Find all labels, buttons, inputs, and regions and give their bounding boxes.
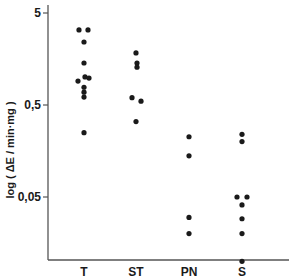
data-point <box>81 94 86 99</box>
x-category-label: T <box>80 265 88 279</box>
data-point <box>186 215 191 220</box>
data-point <box>186 153 191 158</box>
data-point <box>239 259 244 264</box>
data-point <box>81 85 86 90</box>
data-point <box>86 76 91 81</box>
data-point <box>138 99 143 104</box>
y-tick-label: 0,05 <box>18 190 42 204</box>
data-point <box>244 194 249 199</box>
data-point <box>81 39 86 44</box>
y-tick-label: 0,5 <box>24 98 41 112</box>
data-point <box>81 90 86 95</box>
data-point <box>85 27 90 32</box>
data-point <box>186 134 191 139</box>
data-point <box>239 231 244 236</box>
series-t <box>75 27 91 135</box>
x-axis-category-labels: TSTPNS <box>80 265 246 279</box>
data-point <box>239 132 244 137</box>
data-point <box>81 130 86 135</box>
y-tick-label: 5 <box>34 6 41 20</box>
series-pn <box>186 134 191 236</box>
data-point <box>133 119 138 124</box>
data-point <box>76 27 81 32</box>
data-point <box>239 139 244 144</box>
data-point <box>234 194 239 199</box>
x-category-label: S <box>238 265 246 279</box>
series-s <box>234 132 249 264</box>
series-st <box>129 50 143 124</box>
data-point <box>75 78 80 83</box>
scatter-chart: 50,50,05 TSTPNS log ( ΔE / min·mg ) <box>0 0 289 280</box>
data-point <box>239 202 244 207</box>
y-axis-label: log ( ΔE / min·mg ) <box>4 101 16 198</box>
data-points <box>75 27 249 264</box>
x-category-label: PN <box>181 265 198 279</box>
y-axis-ticks: 50,50,05 <box>18 6 48 204</box>
data-point <box>133 50 138 55</box>
x-category-label: ST <box>128 265 144 279</box>
data-point <box>186 231 191 236</box>
data-point <box>239 216 244 221</box>
data-point <box>81 60 86 65</box>
data-point <box>134 65 139 70</box>
data-point <box>129 95 134 100</box>
